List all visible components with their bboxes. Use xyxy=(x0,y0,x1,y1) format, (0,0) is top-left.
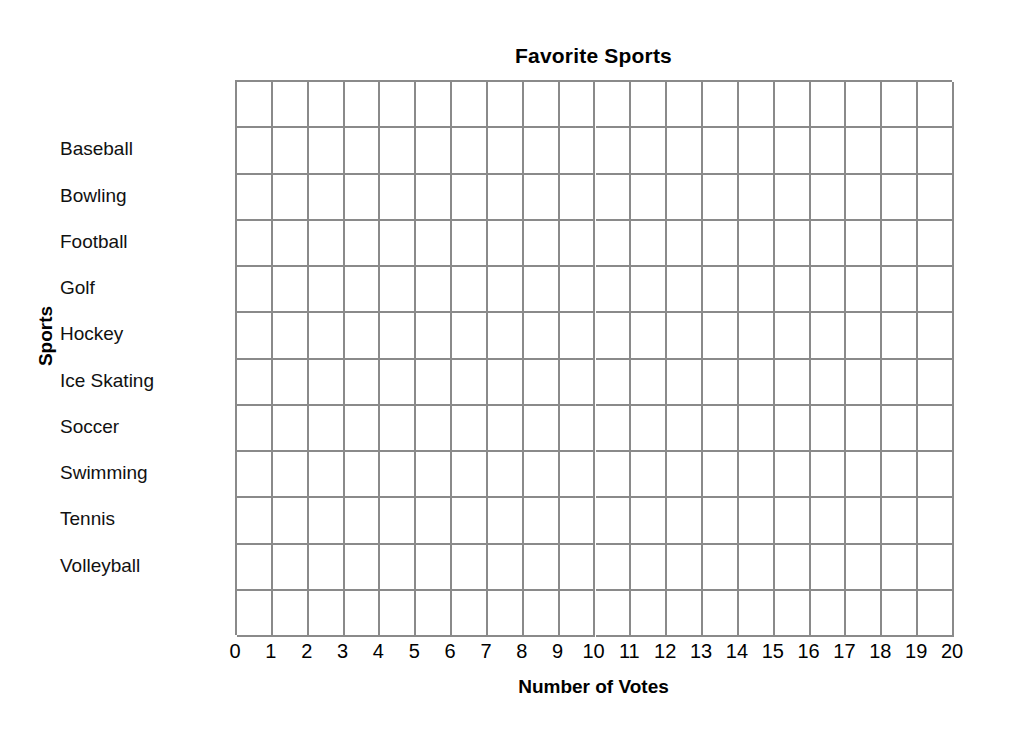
grid-cell[interactable] xyxy=(416,545,452,591)
grid-cell[interactable] xyxy=(345,313,381,359)
grid-cell[interactable] xyxy=(739,406,775,452)
grid-cell[interactable] xyxy=(596,360,632,406)
grid-cell[interactable] xyxy=(345,82,381,128)
grid-cell[interactable] xyxy=(846,498,882,544)
grid-cell[interactable] xyxy=(882,360,918,406)
grid-cell[interactable] xyxy=(918,406,954,452)
grid-cell[interactable] xyxy=(918,545,954,591)
grid-cell[interactable] xyxy=(846,313,882,359)
grid-cell[interactable] xyxy=(345,545,381,591)
grid-cell[interactable] xyxy=(631,128,667,174)
grid-cell[interactable] xyxy=(703,498,739,544)
grid-cell[interactable] xyxy=(345,221,381,267)
grid-cell[interactable] xyxy=(739,545,775,591)
grid-cell[interactable] xyxy=(775,128,811,174)
grid-cell[interactable] xyxy=(811,591,847,637)
grid-cell[interactable] xyxy=(811,452,847,498)
grid-cell[interactable] xyxy=(667,82,703,128)
grid-cell[interactable] xyxy=(560,545,596,591)
grid-cell[interactable] xyxy=(309,406,345,452)
grid-cell[interactable] xyxy=(273,452,309,498)
grid-cell[interactable] xyxy=(380,267,416,313)
grid-cell[interactable] xyxy=(631,498,667,544)
grid-cell[interactable] xyxy=(345,498,381,544)
grid-cell[interactable] xyxy=(345,267,381,313)
grid-cell[interactable] xyxy=(667,313,703,359)
grid-cell[interactable] xyxy=(416,82,452,128)
grid-cell[interactable] xyxy=(631,267,667,313)
grid-cell[interactable] xyxy=(273,82,309,128)
grid-cell[interactable] xyxy=(488,313,524,359)
grid-cell[interactable] xyxy=(596,221,632,267)
grid-cell[interactable] xyxy=(846,82,882,128)
grid-cell[interactable] xyxy=(739,452,775,498)
grid-cell[interactable] xyxy=(488,452,524,498)
grid-cell[interactable] xyxy=(560,267,596,313)
grid-cell[interactable] xyxy=(237,221,273,267)
grid-cell[interactable] xyxy=(811,313,847,359)
grid-cell[interactable] xyxy=(596,406,632,452)
grid-cell[interactable] xyxy=(882,175,918,221)
grid-cell[interactable] xyxy=(452,452,488,498)
grid-cell[interactable] xyxy=(345,175,381,221)
grid-cell[interactable] xyxy=(273,545,309,591)
grid-cell[interactable] xyxy=(380,82,416,128)
grid-cell[interactable] xyxy=(703,82,739,128)
grid-cell[interactable] xyxy=(631,545,667,591)
grid-cell[interactable] xyxy=(560,128,596,174)
grid-cell[interactable] xyxy=(775,452,811,498)
grid-cell[interactable] xyxy=(237,128,273,174)
grid-cell[interactable] xyxy=(739,175,775,221)
grid-cell[interactable] xyxy=(882,452,918,498)
grid-cell[interactable] xyxy=(596,82,632,128)
grid-cell[interactable] xyxy=(811,360,847,406)
grid-cell[interactable] xyxy=(667,498,703,544)
grid-cell[interactable] xyxy=(380,221,416,267)
grid-cell[interactable] xyxy=(667,221,703,267)
grid-cell[interactable] xyxy=(596,498,632,544)
grid-cell[interactable] xyxy=(775,313,811,359)
grid-cell[interactable] xyxy=(596,313,632,359)
grid-cell[interactable] xyxy=(524,267,560,313)
grid-cell[interactable] xyxy=(309,175,345,221)
grid-cell[interactable] xyxy=(918,313,954,359)
grid-cell[interactable] xyxy=(345,591,381,637)
grid-cell[interactable] xyxy=(846,545,882,591)
grid-cell[interactable] xyxy=(560,221,596,267)
grid-cell[interactable] xyxy=(811,175,847,221)
grid-cell[interactable] xyxy=(703,406,739,452)
grid-cell[interactable] xyxy=(596,128,632,174)
grid-cell[interactable] xyxy=(631,360,667,406)
grid-cell[interactable] xyxy=(811,406,847,452)
grid-cell[interactable] xyxy=(631,313,667,359)
grid-cell[interactable] xyxy=(452,313,488,359)
grid-cell[interactable] xyxy=(739,498,775,544)
grid-cell[interactable] xyxy=(416,221,452,267)
grid-cell[interactable] xyxy=(524,360,560,406)
grid-cell[interactable] xyxy=(703,591,739,637)
grid-cell[interactable] xyxy=(452,267,488,313)
grid-cell[interactable] xyxy=(237,313,273,359)
grid-cell[interactable] xyxy=(882,406,918,452)
grid-cell[interactable] xyxy=(416,406,452,452)
grid-cell[interactable] xyxy=(452,591,488,637)
grid-cell[interactable] xyxy=(775,591,811,637)
grid-cell[interactable] xyxy=(524,82,560,128)
grid-cell[interactable] xyxy=(452,128,488,174)
grid-cell[interactable] xyxy=(380,452,416,498)
grid-cell[interactable] xyxy=(488,360,524,406)
grid-cell[interactable] xyxy=(882,128,918,174)
grid-cell[interactable] xyxy=(667,452,703,498)
grid-cell[interactable] xyxy=(775,498,811,544)
grid-cell[interactable] xyxy=(667,128,703,174)
grid-cell[interactable] xyxy=(416,591,452,637)
grid-cell[interactable] xyxy=(309,313,345,359)
grid-cell[interactable] xyxy=(918,498,954,544)
grid-cell[interactable] xyxy=(309,591,345,637)
grid-cell[interactable] xyxy=(237,82,273,128)
grid-cell[interactable] xyxy=(739,267,775,313)
grid-cell[interactable] xyxy=(488,406,524,452)
grid-cell[interactable] xyxy=(631,452,667,498)
grid-cell[interactable] xyxy=(452,406,488,452)
grid-cell[interactable] xyxy=(882,498,918,544)
